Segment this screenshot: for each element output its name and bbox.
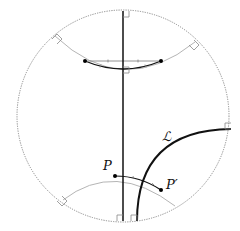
line-L [137, 129, 231, 221]
hyperbolic-disk-diagram: ℒ P P′ [0, 0, 240, 231]
point-P [113, 174, 117, 178]
label-P-prime: P′ [165, 177, 178, 192]
bottom-geodesic-segment [115, 176, 161, 190]
top-right-point [159, 59, 163, 63]
label-L: ℒ [162, 129, 172, 144]
point-P-prime [159, 188, 163, 192]
top-geodesic-arc [55, 36, 195, 70]
bottom-geodesic-arc [63, 181, 175, 206]
top-left-point [83, 59, 87, 63]
arc-tick [145, 65, 146, 68]
label-P: P [102, 158, 112, 173]
